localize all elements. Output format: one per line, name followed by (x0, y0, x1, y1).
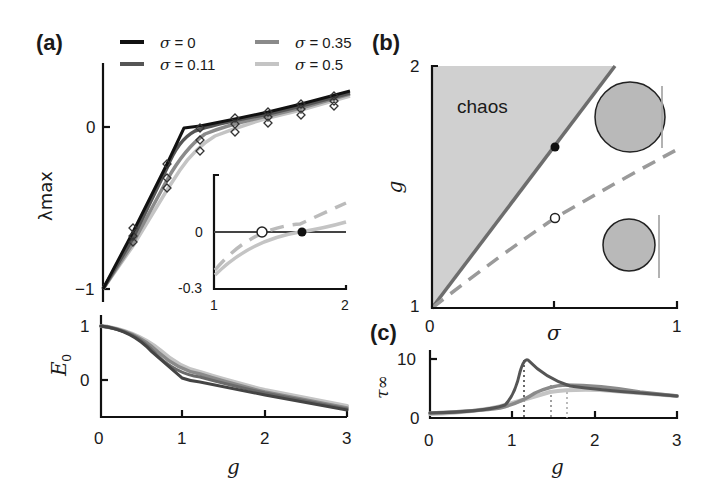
b-x-axis-label: σ (547, 321, 562, 345)
e0-y-axis-label: E0 (47, 354, 74, 377)
e0-y-tick-1: 1 (80, 317, 89, 336)
c-x-tick-1: 1 (507, 431, 516, 450)
legend-entry-sigma-0: σ = 0 (160, 34, 196, 52)
open-dot (551, 214, 560, 223)
legend-entry-sigma-011: σ = 0.11 (160, 56, 215, 74)
panel-label-c: (c) (370, 320, 397, 345)
e0-y-tick-0: 0 (80, 371, 89, 390)
e0-x-tick-1: 1 (177, 429, 186, 448)
c-curves (430, 360, 677, 414)
b-x-tick-1: 1 (672, 317, 681, 336)
y-tick-label-minus1: −1 (75, 280, 94, 299)
c-y-tick-0: 0 (410, 409, 419, 428)
inset-y-tick-minus03: -0.3 (178, 280, 202, 296)
panel-c: (c) 10 0 0 1 2 3 g τ∞ (370, 320, 681, 479)
b-x-tick-0: 0 (425, 317, 434, 336)
c-y-tick-10: 10 (397, 350, 416, 369)
inset: 0 -0.3 1 2 (178, 175, 349, 313)
panel-label-a: (a) (36, 30, 63, 55)
b-y-axis-label: g (383, 181, 407, 194)
inset-x-tick-1: 1 (210, 297, 218, 313)
legend: σ = 0 σ = 0.11 σ = 0.35 σ = 0.5 (120, 34, 352, 74)
large-disk-icon (595, 82, 665, 152)
inset-filled-circle (298, 228, 307, 237)
inset-y-tick-0: 0 (195, 224, 203, 240)
e0-x-tick-2: 2 (260, 429, 269, 448)
chaos-label: chaos (457, 96, 508, 117)
svg-text:E0: E0 (47, 354, 74, 377)
filled-dot (551, 143, 560, 152)
c-x-axis-label: g (551, 455, 564, 479)
c-x-tick-2: 2 (590, 431, 599, 450)
b-y-tick-1: 1 (410, 297, 419, 316)
small-disk-icon (603, 219, 655, 271)
panel-a: (a) σ = 0 σ = 0.11 σ = 0.35 σ = 0.5 0 −1… (35, 30, 352, 313)
panel-b: (b) chaos 2 1 0 1 σ g (372, 30, 681, 345)
e0-x-tick-0: 0 (94, 429, 103, 448)
c-x-tick-3: 3 (672, 431, 681, 450)
figure: (a) σ = 0 σ = 0.11 σ = 0.35 σ = 0.5 0 −1… (0, 0, 714, 504)
e0-x-tick-3: 3 (342, 429, 351, 448)
b-y-tick-2: 2 (410, 57, 419, 76)
panel-label-b: (b) (372, 30, 400, 55)
tau-curve-sigma-035 (430, 385, 677, 413)
inset-open-circle (257, 227, 267, 237)
panel-a-lower: 1 0 0 1 2 3 g E0 (47, 315, 351, 479)
legend-entry-sigma-05: σ = 0.5 (295, 56, 343, 74)
c-x-tick-0: 0 (424, 431, 433, 450)
e0-x-axis-label: g (227, 455, 240, 479)
y-tick-label-0: 0 (86, 118, 95, 137)
inset-x-tick-2: 2 (341, 297, 349, 313)
y-axis-label-lambda-max: λmax (35, 171, 56, 221)
c-axes (430, 350, 677, 418)
e0-curves (101, 326, 347, 410)
legend-entry-sigma-035: σ = 0.35 (295, 34, 352, 52)
c-y-axis-label: τ∞ (372, 375, 392, 399)
